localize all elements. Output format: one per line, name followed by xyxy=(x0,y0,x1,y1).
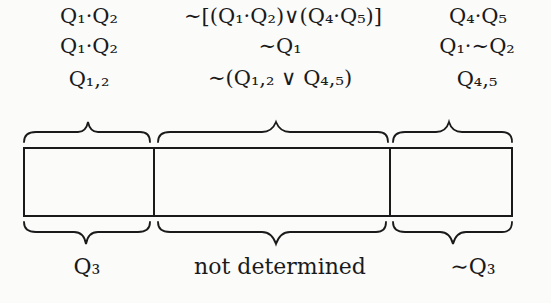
top-brace-right xyxy=(393,122,512,142)
top-brace-middle xyxy=(158,122,388,142)
bottom-brace-middle xyxy=(158,222,386,244)
bottom-brace-left xyxy=(24,222,150,244)
bottom-brace-right xyxy=(393,222,512,244)
top-brace-left xyxy=(24,122,150,142)
bottom-label-left: Q₃ xyxy=(74,254,101,279)
box-outline xyxy=(24,148,512,216)
bottom-label-middle: not determined xyxy=(194,254,366,279)
bottom-label-right: ∼Q₃ xyxy=(450,254,495,279)
